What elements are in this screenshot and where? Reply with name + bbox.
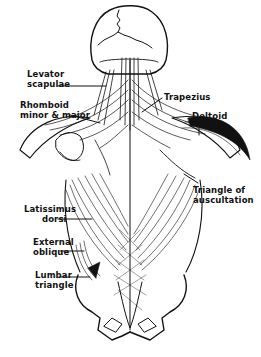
skull-icon bbox=[91, 6, 168, 74]
label-lumbar-triangle: Lumbar triangle bbox=[35, 270, 74, 290]
label-latissimus-dorsi: Latissimus dorsi bbox=[24, 204, 76, 224]
label-levator-scapulae: Levator scapulae bbox=[27, 69, 70, 89]
back-muscles-illustration bbox=[0, 0, 261, 357]
label-trapezius: Trapezius bbox=[164, 92, 211, 102]
anatomy-diagram: Levator scapulae Rhomboid minor & major … bbox=[0, 0, 261, 357]
label-triangle-of-auscultation: Triangle of auscultation bbox=[193, 185, 254, 205]
label-deltoid: Deltoid bbox=[192, 111, 227, 121]
label-rhomboid: Rhomboid minor & major bbox=[20, 100, 90, 120]
label-external-oblique: External oblique bbox=[33, 237, 74, 257]
